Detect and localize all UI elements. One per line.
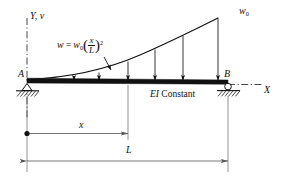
dimension-l-label: L (126, 145, 132, 155)
y-axis-label: Y, v (30, 11, 44, 21)
dimension-x (24, 131, 128, 136)
formula-equals: = (66, 39, 72, 50)
beam (27, 78, 228, 84)
dimension-extension-lines (27, 85, 228, 172)
ground-hatch-a (17, 91, 39, 97)
beam-property-symbol: EI (150, 89, 159, 99)
ground-hatch-b (218, 91, 240, 97)
beam-load-diagram: Y, v w0 A B X EI Constant x L w=w0(xL)2 (0, 0, 288, 179)
load-curve (27, 18, 218, 80)
support-b-label: B (224, 69, 230, 79)
formula-leader-arrow (104, 57, 111, 70)
dimension-x-origin-dot (24, 131, 29, 136)
load-peak-label: w0 (239, 6, 249, 16)
beam-property-text: Constant (159, 89, 195, 99)
load-formula: w=w0(xL)2 (57, 36, 103, 56)
formula-exponent: 2 (100, 39, 103, 46)
x-axis-label: X (264, 85, 270, 95)
support-b-roller (217, 83, 240, 96)
diagram-canvas (0, 0, 288, 179)
formula-lhs: w (57, 39, 64, 50)
support-a-pin (16, 84, 39, 97)
formula-coefficient: w (73, 39, 80, 50)
support-a-label: A (18, 69, 24, 79)
load-peak-subscript: 0 (246, 10, 249, 17)
load-peak-symbol: w (239, 5, 246, 16)
beam-property-note: EI Constant (150, 90, 195, 100)
dimension-x-label: x (79, 120, 83, 130)
